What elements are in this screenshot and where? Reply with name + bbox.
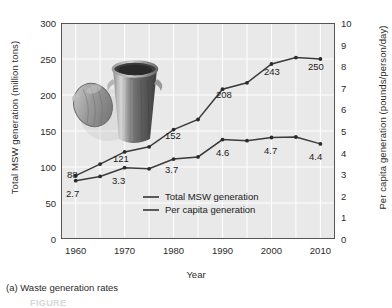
x-axis-title: Year bbox=[0, 269, 392, 280]
y-tick-left-50: 50 bbox=[26, 198, 56, 209]
data-label-pc-1990: 4.6 bbox=[216, 147, 229, 158]
y-tick-right-8: 8 bbox=[341, 61, 371, 72]
x-tick-1980: 1980 bbox=[154, 245, 194, 256]
y-tick-right-10: 10 bbox=[341, 18, 371, 29]
y-tick-right-4: 4 bbox=[341, 148, 371, 159]
legend-label-per-capita: Per capita generation bbox=[165, 204, 255, 215]
y-tick-left-300: 300 bbox=[26, 18, 56, 29]
data-label-pc-1980: 3.7 bbox=[165, 164, 178, 175]
x-tick-1990: 1990 bbox=[203, 245, 243, 256]
y-tick-right-5: 5 bbox=[341, 126, 371, 137]
y-tick-left-150: 150 bbox=[26, 126, 56, 137]
x-tick-2000: 2000 bbox=[251, 245, 291, 256]
data-label-msw-2000: 243 bbox=[264, 66, 280, 77]
y-tick-right-0: 0 bbox=[341, 234, 371, 245]
data-label-pc-1960: 2.7 bbox=[66, 188, 79, 199]
x-tick-1970: 1970 bbox=[105, 245, 145, 256]
y-axis-title-left: Total MSW generation (million tons) bbox=[9, 8, 20, 228]
y-tick-left-0: 0 bbox=[26, 234, 56, 245]
y-tick-right-3: 3 bbox=[341, 169, 371, 180]
data-label-pc-2010: 4.4 bbox=[309, 151, 322, 162]
y-tick-right-9: 9 bbox=[341, 40, 371, 51]
y-tick-right-7: 7 bbox=[341, 83, 371, 94]
data-label-msw-1980: 152 bbox=[165, 130, 181, 141]
x-tick-2010: 2010 bbox=[300, 245, 340, 256]
figure-caption-cutoff: FIGURE bbox=[30, 298, 66, 308]
plot-area: 88 121 152 208 243 250 2.7 3.3 3.7 4.6 4… bbox=[61, 23, 335, 239]
data-label-msw-1960: 88 bbox=[67, 169, 78, 180]
data-label-msw-1970: 121 bbox=[113, 153, 129, 164]
data-label-msw-2010: 250 bbox=[308, 61, 324, 72]
y-tick-right-1: 1 bbox=[341, 212, 371, 223]
y-tick-left-100: 100 bbox=[26, 162, 56, 173]
data-label-msw-1990: 208 bbox=[216, 89, 232, 100]
data-label-pc-2000: 4.7 bbox=[264, 145, 277, 156]
y-tick-left-200: 200 bbox=[26, 90, 56, 101]
y-tick-right-6: 6 bbox=[341, 104, 371, 115]
y-tick-right-2: 2 bbox=[341, 191, 371, 202]
figure-caption: (a) Waste generation rates bbox=[6, 282, 118, 293]
y-tick-left-250: 250 bbox=[26, 54, 56, 65]
legend-label-total-msw: Total MSW generation bbox=[165, 191, 258, 202]
x-tick-1960: 1960 bbox=[56, 245, 96, 256]
y-axis-title-right: Per capita generation (pounds/person/day… bbox=[377, 8, 388, 228]
data-label-pc-1970: 3.3 bbox=[112, 175, 125, 186]
